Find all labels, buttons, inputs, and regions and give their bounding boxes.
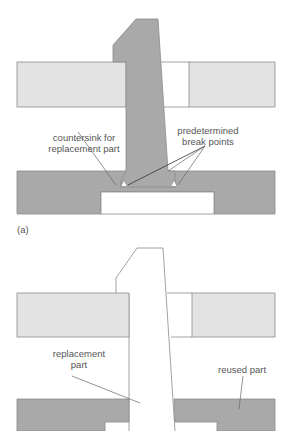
countersink-label-2: replacement part [48,143,120,154]
upper-plate-left [17,62,126,107]
upper-plate-right-b [192,293,275,337]
panel-b: replacement part reused part [17,248,275,431]
reused-part-label: reused part [218,364,266,375]
panel-a-label: (a) [17,224,29,235]
upper-plate-left-b [17,293,129,337]
replacement-part-label-1: replacement [53,348,106,359]
diagram-canvas: countersink for replacement part predete… [0,0,286,431]
countersink-area [101,192,214,214]
replacement-part-label-2: part [71,359,88,370]
countersink-label-1: countersink for [53,132,115,143]
reused-part-right [174,399,275,431]
upper-plate-right [189,62,275,107]
reused-part-left [17,399,129,431]
panel-a: countersink for replacement part predete… [17,19,275,235]
break-points-label-2: break points [182,136,234,147]
break-points-label-1: predetermined [177,125,238,136]
